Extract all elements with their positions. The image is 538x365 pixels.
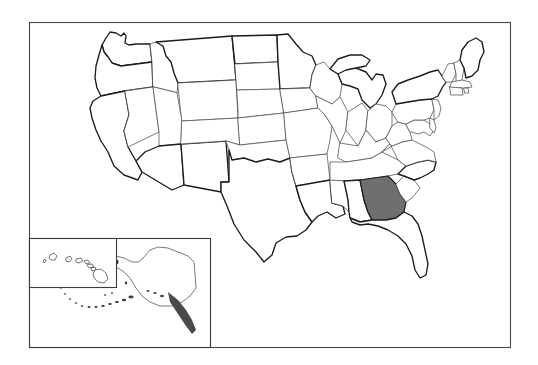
us-map-svg: Washington Oregon California Nevada Idah… (0, 0, 538, 365)
state-wy[interactable]: Wyoming (178, 80, 238, 121)
us-map-figure: Washington Oregon California Nevada Idah… (0, 0, 538, 365)
state-co[interactable]: Colorado (181, 118, 240, 145)
state-mo[interactable]: Missouri (284, 108, 332, 158)
state-ks[interactable]: Kansas (238, 113, 286, 145)
state-sd[interactable]: South Dakota (235, 62, 280, 90)
state-ct[interactable]: Connecticut (450, 87, 463, 95)
hawaii-inset-group (30, 239, 117, 288)
state-ri[interactable]: Rhode Island (464, 88, 469, 93)
state-nd[interactable]: North Dakota (232, 35, 278, 64)
